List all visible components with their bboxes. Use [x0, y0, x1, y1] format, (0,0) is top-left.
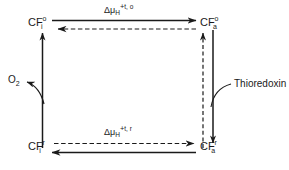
- arrow-oxygen-branch: [27, 82, 44, 104]
- pmf-bottom-mu-subscript: H: [115, 131, 120, 138]
- edge-label-pmf-bottom: ΔμH+t, r: [104, 128, 132, 137]
- node-label-cf-i-o: CFoi: [28, 17, 43, 28]
- node-label-cf-a-r: CFra: [200, 141, 215, 152]
- node-cf-a-o-subscript: a: [213, 23, 217, 30]
- node-cf-i-o-subscript: i: [41, 23, 43, 30]
- node-cf-i-o-superscript: o: [42, 15, 46, 22]
- arrow-thioredoxin-branch: [211, 84, 231, 107]
- node-cf-a-r-superscript: r: [214, 139, 216, 146]
- annotation-label-oxygen: O2: [8, 75, 20, 85]
- oxygen-subscript: 2: [16, 80, 20, 87]
- node-label-cf-a-o: CFoa: [200, 17, 217, 28]
- node-cf-i-r-subscript: i: [39, 147, 41, 154]
- pmf-top-mu-subscript: H: [115, 9, 120, 16]
- reaction-cycle-diagram: CFoi CFoa CFri CFra ΔμH+t, o ΔμH+t, r O2…: [0, 0, 289, 170]
- node-cf-i-r-superscript: r: [42, 139, 44, 146]
- pmf-bottom-superscript: t, r: [124, 125, 132, 132]
- node-cf-a-r-subscript: a: [211, 147, 215, 154]
- annotation-label-thioredoxin: Thioredoxin: [234, 79, 286, 89]
- node-label-cf-i-r: CFri: [28, 141, 41, 152]
- edge-label-pmf-top: ΔμH+t, o: [104, 6, 133, 15]
- pmf-top-superscript: t, o: [124, 3, 133, 10]
- oxygen-base: O: [8, 74, 16, 85]
- node-cf-a-o-superscript: o: [214, 15, 218, 22]
